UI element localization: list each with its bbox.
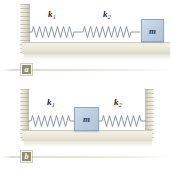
mass-block-a-label: m [142,20,163,41]
spring-label-k2-a-subscript: 2 [108,14,111,20]
spring-label-k1-b: k1 [47,98,55,107]
spring-label-k1-b-symbol: k [47,97,52,107]
mass-block-b: m [74,107,99,131]
caption-row-b: b [0,150,171,164]
spring-label-k1-b-subscript: 1 [52,102,55,108]
floor-line-a [22,42,170,43]
floor-a [22,42,170,54]
spring-k2-b [98,114,146,128]
spring-label-k1-a-subscript: 1 [53,14,56,20]
panel-b: k1 k2 m b [0,86,171,170]
spring-label-k2-b: k2 [114,98,122,107]
spring-k1-a [29,25,78,39]
floor-shadow-b [24,141,152,147]
spring-mass-figure: k1 k2 m a [0,0,171,170]
caption-badge-a: a [21,64,32,75]
spring-k1-b [28,114,75,128]
caption-row-a: a [0,63,171,77]
spring-label-k2-b-subscript: 2 [119,102,122,108]
mass-block-b-label: m [75,108,98,130]
floor-shadow-a [24,54,170,60]
caption-badge-b: b [21,151,32,162]
spring-k2-a [78,25,140,39]
spring-label-k2-a-symbol: k [103,9,108,19]
spring-label-k1-a-symbol: k [48,9,53,19]
floor-b [22,130,152,141]
spring-label-k2-b-symbol: k [114,97,119,107]
mass-block-a: m [141,19,164,42]
panel-a: k1 k2 m a [0,0,171,78]
spring-label-k1-a: k1 [48,10,56,19]
spring-label-k2-a: k2 [103,10,111,19]
